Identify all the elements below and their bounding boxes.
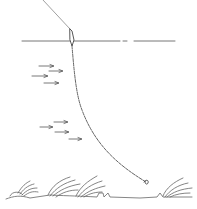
current-arrows-lower xyxy=(40,121,82,141)
submerged-line xyxy=(72,46,146,182)
fishing-diagram xyxy=(0,0,197,209)
float-icon xyxy=(70,29,74,46)
line-to-float xyxy=(43,0,70,29)
weeds xyxy=(18,176,192,197)
hook-icon xyxy=(144,180,148,184)
current-arrows-upper xyxy=(32,65,63,85)
